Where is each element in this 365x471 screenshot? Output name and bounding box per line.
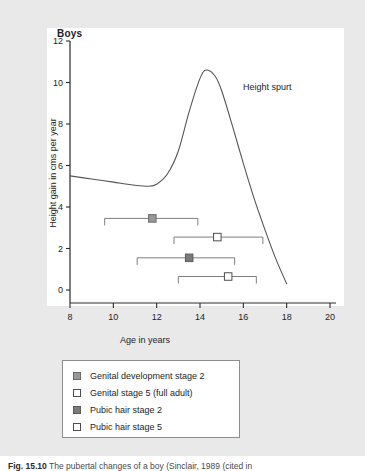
x-axis-tick-label: 18 [282,312,292,322]
x-axis-tick-label: 16 [238,312,248,322]
figure-caption-text: The pubertal changes of a boy (Sinclair,… [49,461,252,471]
figure-caption: Fig. 15.10 The pubertal changes of a boy… [8,461,365,471]
legend-box: Genital development stage 2Genital stage… [62,360,240,438]
legend-swatch-filled-light-icon [73,372,81,380]
stage-marker-hollow [214,233,222,241]
legend-item-label: Genital stage 5 (full adult) [90,388,193,398]
legend-item-label: Pubic hair stage 5 [90,422,162,432]
y-axis-tick-label: 8 [58,119,63,129]
legend-swatch-hollow-icon [73,389,81,397]
height-spurt-annotation: Height spurt [243,82,292,92]
x-axis-tick-label: 14 [195,312,205,322]
legend-item: Pubic hair stage 2 [73,402,205,418]
figure-caption-number: Fig. 15.10 [8,461,47,471]
y-axis-tick-label: 6 [58,161,63,171]
stage-marker-filled-light [149,215,157,223]
stage-marker-hollow [224,273,232,281]
x-axis-title: Age in years [120,335,170,345]
y-axis-tick-label: 4 [58,202,63,212]
x-axis-tick-label: 10 [108,312,118,322]
stage-range-bar [174,233,263,244]
stage-range-bar [178,273,256,284]
y-axis-tick-label: 2 [58,244,63,254]
stage-marker-filled-dark [185,254,193,262]
legend-item: Genital development stage 2 [73,368,205,384]
stage-range-bar [105,215,198,226]
x-axis-tick-label: 12 [152,312,162,322]
legend-swatch-hollow-icon [73,423,81,431]
legend-list: Genital development stage 2Genital stage… [73,368,205,436]
y-axis-tick-label: 12 [53,36,63,46]
x-axis-tick-label: 8 [67,312,72,322]
legend-item-label: Pubic hair stage 2 [90,405,162,415]
legend-item-label: Genital development stage 2 [90,371,205,381]
legend-swatch-filled-dark-icon [73,406,81,414]
legend-item: Pubic hair stage 5 [73,419,205,435]
height-velocity-curve [70,70,287,284]
x-axis-tick-label: 20 [325,312,335,322]
figure-page: Boys 0246810128101214161820 Height gain … [0,0,365,471]
legend-item: Genital stage 5 (full adult) [73,385,205,401]
y-axis-tick-label: 0 [58,285,63,295]
y-axis-title: Height gain in cms per year [48,73,58,273]
stage-range-bar [137,254,235,265]
